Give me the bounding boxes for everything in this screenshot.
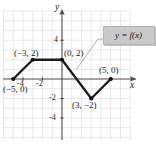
data-point-marker bbox=[11, 77, 15, 81]
data-point-marker bbox=[31, 58, 35, 62]
point-label-5-0: (5, 0) bbox=[99, 66, 119, 75]
y-axis bbox=[59, 9, 65, 140]
y-tick-label-4: 4 bbox=[54, 36, 58, 44]
point-label-0-2: (0, 2) bbox=[64, 49, 84, 58]
point-label-neg5-0: (−5, 0) bbox=[3, 85, 28, 94]
plot-canvas bbox=[0, 0, 156, 154]
function-graph-figure: -4 -2 4 -2 -4 x y (−3, 2) (0, 2) (5, 0) … bbox=[0, 0, 156, 154]
data-point-marker bbox=[60, 58, 64, 62]
y-axis-label: y bbox=[55, 3, 59, 13]
y-tick-label-neg2: -2 bbox=[49, 94, 56, 102]
point-label-3-neg2: (3, −2) bbox=[72, 101, 97, 110]
x-axis-label: x bbox=[130, 81, 134, 91]
point-label-neg3-2: (−3, 2) bbox=[14, 49, 39, 58]
legend-label: y = f(x) bbox=[106, 30, 151, 40]
x-tick-label-neg2: -2 bbox=[36, 80, 43, 88]
data-point-marker bbox=[109, 77, 113, 81]
y-tick-label-neg4: -4 bbox=[49, 114, 56, 122]
